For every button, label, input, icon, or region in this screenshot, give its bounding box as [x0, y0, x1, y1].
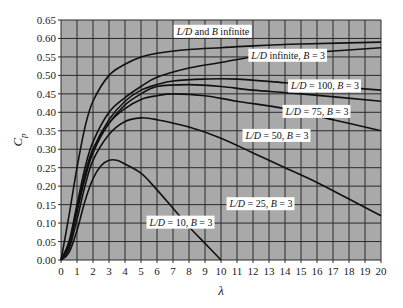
x-tick-label: 5 — [138, 265, 144, 277]
x-tick-label: 13 — [264, 265, 276, 277]
curve-label: L/D = 10, B = 3 — [147, 216, 215, 229]
y-tick-label: 0.20 — [37, 180, 57, 192]
curve-label: L/D and B infinite — [174, 25, 252, 38]
x-tick-label: 1 — [74, 265, 80, 277]
y-tick-label: 0.15 — [37, 199, 57, 211]
y-tick-label: 0.25 — [37, 162, 57, 174]
svg-text:L/D = 50, B = 3: L/D = 50, B = 3 — [245, 130, 309, 141]
x-tick-label: 9 — [202, 265, 208, 277]
curve-label: L/D = 75, B = 3 — [283, 105, 351, 118]
x-tick-label: 2 — [90, 265, 96, 277]
svg-text:L/D infinite, B = 3: L/D infinite, B = 3 — [250, 50, 325, 61]
x-tick-label: 0 — [58, 265, 64, 277]
x-axis-label: λ — [217, 283, 224, 298]
x-tick-label: 3 — [106, 265, 112, 277]
svg-text:L/D = 25, B = 3: L/D = 25, B = 3 — [229, 198, 293, 209]
svg-text:L/D = 75, B = 3: L/D = 75, B = 3 — [285, 106, 349, 117]
svg-text:L/D and B infinite: L/D and B infinite — [176, 26, 250, 37]
svg-text:L/D = 100, B = 3: L/D = 100, B = 3 — [290, 80, 359, 91]
y-tick-label: 0.00 — [37, 254, 57, 266]
x-tick-label: 19 — [360, 265, 372, 277]
y-tick-label: 0.40 — [37, 106, 57, 118]
y-axis-label: Cp — [10, 133, 28, 147]
y-tick-label: 0.60 — [37, 32, 57, 44]
curve-label: L/D infinite, B = 3 — [248, 49, 327, 62]
y-tick-label: 0.10 — [37, 217, 57, 229]
y-tick-label: 0.45 — [37, 88, 57, 100]
y-tick-label: 0.50 — [37, 69, 57, 81]
x-tick-label: 6 — [154, 265, 160, 277]
svg-text:Cp: Cp — [10, 133, 28, 147]
y-tick-label: 0.05 — [37, 236, 57, 248]
x-tick-label: 16 — [312, 265, 324, 277]
x-tick-label: 10 — [216, 265, 228, 277]
y-axis-ticks: 0.000.050.100.150.200.250.300.350.400.45… — [37, 14, 57, 266]
x-tick-label: 15 — [296, 265, 308, 277]
x-tick-label: 8 — [186, 265, 192, 277]
y-tick-label: 0.30 — [37, 143, 57, 155]
x-tick-label: 7 — [170, 265, 176, 277]
x-tick-label: 20 — [376, 265, 388, 277]
curve-label: L/D = 50, B = 3 — [243, 129, 311, 142]
x-tick-label: 17 — [328, 265, 340, 277]
y-tick-label: 0.65 — [37, 14, 57, 26]
y-tick-label: 0.55 — [37, 51, 57, 63]
x-tick-label: 4 — [122, 265, 128, 277]
x-tick-label: 11 — [232, 265, 243, 277]
curve-label: L/D = 100, B = 3 — [288, 79, 361, 92]
x-tick-label: 14 — [280, 265, 292, 277]
x-tick-label: 18 — [344, 265, 356, 277]
y-tick-label: 0.35 — [37, 125, 57, 137]
svg-text:L/D = 10, B = 3: L/D = 10, B = 3 — [149, 217, 213, 228]
curve-label: L/D = 25, B = 3 — [227, 197, 295, 210]
power-coefficient-chart: L/D and B infiniteL/D infinite, B = 3L/D… — [0, 0, 403, 308]
x-tick-label: 12 — [248, 265, 259, 277]
x-axis-ticks: 01234567891011121314151617181920 — [58, 265, 387, 277]
